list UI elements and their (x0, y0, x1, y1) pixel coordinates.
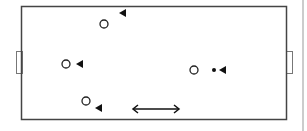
ball-icon (212, 68, 216, 72)
player-triangle-icon (76, 60, 83, 68)
pitch-diagram (0, 0, 307, 131)
player-triangle-icon (119, 9, 126, 17)
player-circle-icon (190, 66, 198, 74)
player-triangle-icon (95, 104, 102, 112)
player-circle-icon (100, 20, 108, 28)
player-circle-icon (82, 97, 90, 105)
pitch-boundary (22, 7, 287, 120)
player-triangle-icon (219, 66, 226, 74)
player-circle-icon (62, 60, 70, 68)
goal-right (287, 52, 293, 74)
